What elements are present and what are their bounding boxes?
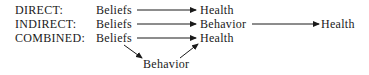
- arrow-combined-behavior-health: [180, 44, 198, 58]
- node-indirect-behavior: Behavior: [200, 18, 246, 30]
- node-indirect-health: Health: [321, 18, 355, 30]
- arrow-combined-beliefs-behavior: [124, 45, 142, 58]
- node-combined-health: Health: [200, 32, 234, 44]
- node-indirect-beliefs: Beliefs: [96, 18, 132, 30]
- node-direct-beliefs: Beliefs: [96, 4, 132, 16]
- row-label-indirect: INDIRECT:: [15, 18, 76, 30]
- node-combined-behavior: Behavior: [143, 58, 189, 70]
- row-label-combined: COMBINED:: [15, 32, 85, 44]
- node-combined-beliefs: Beliefs: [96, 32, 132, 44]
- row-label-direct: DIRECT:: [15, 4, 63, 16]
- node-direct-health: Health: [200, 4, 234, 16]
